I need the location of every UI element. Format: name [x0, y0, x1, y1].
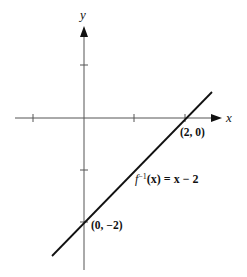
x-axis-label: x: [225, 110, 232, 125]
y-axis-arrow-icon: [80, 26, 88, 37]
y-intercept-label: (0, −2): [91, 219, 123, 232]
x-intercept-label: (2, 0): [180, 126, 205, 139]
equation-rest: (x) = x − 2: [147, 172, 199, 186]
y-axis-label: y: [78, 7, 86, 22]
equation-superscript: −1: [138, 172, 147, 181]
x-axis-arrow-icon: [211, 114, 222, 122]
graph-canvas: y x (2, 0) (0, −2) f−1(x) = x − 2: [0, 0, 247, 277]
equation-label: f−1(x) = x − 2: [135, 172, 199, 186]
